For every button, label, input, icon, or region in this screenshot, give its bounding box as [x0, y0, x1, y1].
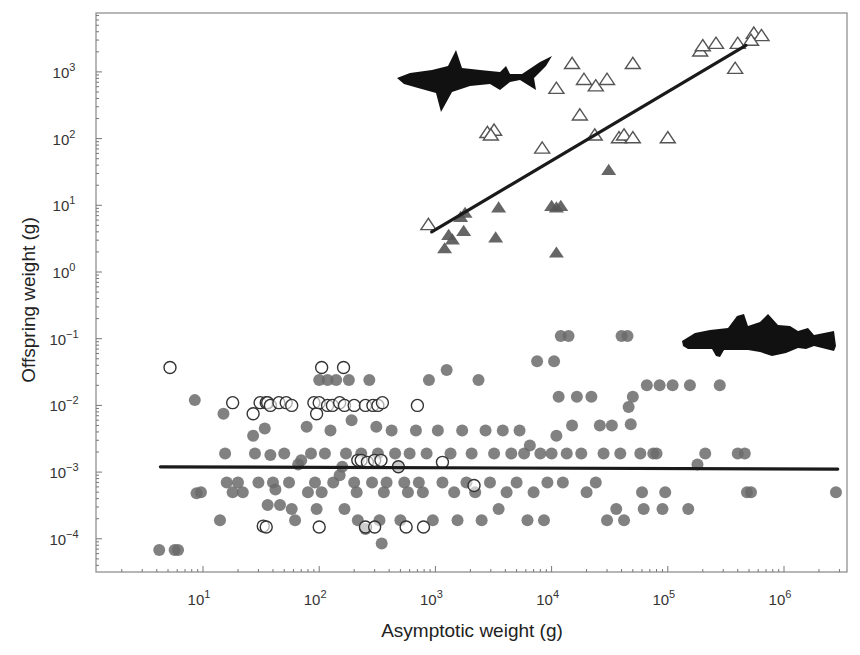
data-point-filled-circle: [404, 448, 416, 460]
data-point-filled-circle: [553, 391, 565, 403]
data-point-filled-circle: [305, 448, 317, 460]
data-point-filled-circle: [436, 476, 448, 488]
data-point-filled-circle: [571, 391, 583, 403]
x-tick-label: 106: [769, 588, 792, 608]
data-point-filled-circle: [423, 374, 435, 386]
data-point-filled-circle: [476, 514, 488, 526]
data-point-filled-circle: [511, 476, 523, 488]
data-point-filled-circle: [302, 486, 314, 498]
y-tick-label: 100: [53, 261, 76, 281]
shark-icon: [397, 50, 552, 112]
data-point-filled-triangle: [601, 164, 616, 175]
data-point-filled-circle: [252, 476, 264, 488]
x-axis-title: Asymptotic weight (g): [381, 620, 563, 641]
data-point-filled-circle: [684, 379, 696, 391]
data-point-filled-circle: [311, 503, 323, 515]
data-point-filled-circle: [441, 364, 453, 376]
x-tick-label: 101: [188, 588, 211, 608]
x-tick-label: 105: [652, 588, 675, 608]
data-point-filled-circle: [654, 379, 666, 391]
data-point-open-triangle: [572, 109, 587, 120]
data-point-open-circle: [247, 408, 259, 420]
data-point-filled-circle: [614, 448, 626, 460]
data-point-filled-circle: [699, 448, 711, 460]
data-point-filled-circle: [714, 379, 726, 391]
y-tick-label: 10−1: [49, 328, 78, 348]
data-point-filled-circle: [283, 476, 295, 488]
data-point-filled-circle: [289, 514, 301, 526]
data-point-filled-circle: [636, 486, 648, 498]
data-point-filled-circle: [641, 379, 653, 391]
x-tick-label: 103: [420, 588, 443, 608]
data-point-filled-circle: [237, 486, 249, 498]
data-point-filled-circle: [563, 330, 575, 342]
data-point-filled-circle: [528, 486, 540, 498]
data-point-filled-circle: [594, 419, 606, 431]
data-point-open-triangle: [660, 132, 675, 143]
data-point-open-circle: [316, 362, 328, 374]
data-point-filled-circle: [601, 514, 613, 526]
data-point-filled-circle: [830, 486, 842, 498]
scatter-chart: 10110210310410510610310210110010−110−210…: [0, 0, 860, 655]
data-point-filled-circle: [575, 448, 587, 460]
data-point-filled-circle: [538, 514, 550, 526]
data-point-open-triangle: [535, 142, 550, 153]
data-point-filled-circle: [153, 544, 165, 556]
data-point-filled-circle: [330, 374, 342, 386]
data-point-filled-circle: [456, 425, 468, 437]
data-point-filled-circle: [324, 425, 336, 437]
data-point-filled-circle: [659, 486, 671, 498]
data-point-filled-circle: [480, 425, 492, 437]
data-point-filled-circle: [546, 448, 558, 460]
data-point-filled-circle: [309, 476, 321, 488]
data-point-filled-circle: [274, 499, 286, 511]
data-point-open-circle: [400, 521, 412, 533]
data-point-filled-circle: [366, 476, 378, 488]
data-point-filled-circle: [534, 448, 546, 460]
regression-line: [160, 467, 837, 469]
data-point-filled-circle: [656, 503, 668, 515]
data-point-filled-circle: [410, 425, 422, 437]
data-point-filled-triangle: [491, 201, 506, 212]
data-point-filled-circle: [548, 355, 560, 367]
data-point-filled-circle: [466, 448, 478, 460]
data-point-open-circle: [227, 397, 239, 409]
data-point-filled-circle: [389, 448, 401, 460]
data-point-filled-circle: [622, 330, 634, 342]
data-point-filled-circle: [638, 503, 650, 515]
data-point-filled-circle: [214, 514, 226, 526]
data-point-open-circle: [348, 399, 360, 411]
data-point-filled-circle: [452, 514, 464, 526]
data-point-open-circle: [376, 397, 388, 409]
data-point-open-circle: [260, 521, 272, 533]
y-tick-label: 103: [53, 61, 76, 81]
data-point-open-triangle: [728, 62, 743, 73]
data-point-open-circle: [369, 521, 381, 533]
data-point-filled-circle: [295, 454, 307, 466]
data-point-filled-circle: [745, 486, 757, 498]
data-point-open-circle: [164, 362, 176, 374]
data-point-filled-circle: [590, 476, 602, 488]
data-point-filled-circle: [264, 449, 276, 461]
data-point-filled-triangle: [488, 231, 503, 242]
y-tick-label: 102: [53, 128, 76, 148]
data-point-filled-circle: [610, 503, 622, 515]
data-point-filled-circle: [249, 448, 261, 460]
data-point-filled-circle: [488, 448, 500, 460]
y-tick-label: 10−3: [49, 461, 78, 481]
data-point-filled-circle: [682, 503, 694, 515]
data-point-open-triangle: [600, 73, 615, 84]
data-point-filled-circle: [585, 391, 597, 403]
y-axis-title: Offspring weight (g): [18, 217, 39, 382]
plot-frame: 10110210310410510610310210110010−110−210…: [49, 13, 847, 608]
data-point-filled-circle: [432, 425, 444, 437]
data-point-open-circle: [411, 399, 423, 411]
data-point-filled-circle: [521, 514, 533, 526]
data-point-filled-circle: [514, 425, 526, 437]
data-point-filled-circle: [627, 391, 639, 403]
cod-icon: [682, 314, 836, 357]
data-point-open-circle: [375, 454, 387, 466]
data-point-filled-circle: [278, 448, 290, 460]
data-point-filled-circle: [501, 486, 513, 498]
data-point-open-circle: [311, 408, 323, 420]
